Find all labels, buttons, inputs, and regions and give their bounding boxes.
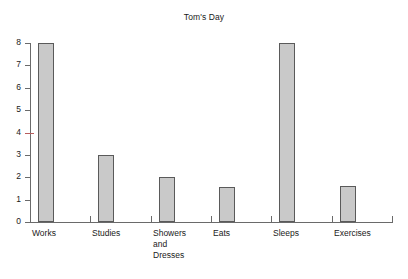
y-axis-tick-label-7: 7 xyxy=(0,60,21,69)
x-axis-tick-4 xyxy=(271,216,272,223)
y-axis-tick-label-6: 6 xyxy=(0,83,21,92)
x-axis-tick-3 xyxy=(211,216,212,223)
bar-showers-and-dresses xyxy=(159,177,175,222)
x-axis-label-works: Works xyxy=(32,228,56,239)
x-axis-label-sleeps: Sleeps xyxy=(273,228,299,239)
chart-title: Tom's Day xyxy=(0,12,408,22)
bar-eats xyxy=(219,187,235,222)
bar-studies xyxy=(98,155,114,222)
y-axis-tick-4 xyxy=(25,133,34,134)
y-axis-tick-7 xyxy=(25,65,31,66)
x-axis-tick-1 xyxy=(90,216,91,223)
y-axis-tick-1 xyxy=(25,200,31,201)
x-axis-tick-5 xyxy=(332,216,333,223)
x-axis-label-studies: Studies xyxy=(92,228,120,239)
y-axis-tick-label-0: 0 xyxy=(0,217,21,226)
bar-chart-figure: Tom's Day 012345678 WorksStudiesShowers … xyxy=(0,0,408,279)
x-axis-label-showers-and-dresses: Showers and Dresses xyxy=(153,228,186,261)
y-axis-tick-6 xyxy=(25,88,31,89)
y-axis-tick-label-4: 4 xyxy=(0,128,21,137)
x-axis-label-exercises: Exercises xyxy=(334,228,371,239)
x-axis-tick-0 xyxy=(30,216,31,223)
y-axis-tick-label-8: 8 xyxy=(0,38,21,47)
y-axis-tick-2 xyxy=(25,177,31,178)
x-axis-label-eats: Eats xyxy=(213,228,230,239)
y-axis-tick-5 xyxy=(25,110,31,111)
y-axis-tick-8 xyxy=(25,43,31,44)
bar-sleeps xyxy=(279,43,295,222)
x-axis-tick-2 xyxy=(151,216,152,223)
y-axis-tick-label-2: 2 xyxy=(0,172,21,181)
y-axis-tick-label-5: 5 xyxy=(0,105,21,114)
bar-exercises xyxy=(340,186,356,222)
y-axis-tick-3 xyxy=(25,155,31,156)
bar-works xyxy=(38,43,54,222)
y-axis-tick-label-1: 1 xyxy=(0,195,21,204)
x-axis-tick-6 xyxy=(392,216,393,223)
y-axis-tick-label-3: 3 xyxy=(0,150,21,159)
